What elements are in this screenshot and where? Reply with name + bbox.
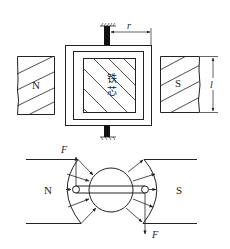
top-view (17, 23, 218, 140)
south-label-top: S (175, 77, 181, 89)
bottom-shaft (100, 125, 116, 140)
iron-core-label-1: 铁 (107, 72, 117, 84)
force-top-label: F (60, 144, 68, 155)
rotor-circle (89, 168, 133, 212)
north-label-bottom: N (44, 184, 52, 196)
length-dimension (200, 57, 218, 113)
iron-core-label-2: 芯 (107, 85, 117, 97)
force-bottom-label: F (151, 229, 159, 240)
motor-diagram: N S 铁 芯 r l (0, 0, 230, 249)
north-label-top: N (32, 79, 40, 91)
left-conductor (73, 186, 80, 193)
top-shaft (100, 23, 116, 45)
field-lines-left (66, 157, 96, 224)
south-label-bottom: S (176, 184, 182, 196)
radius-dimension (111, 28, 151, 45)
length-label: l (210, 79, 213, 90)
right-conductor (142, 186, 149, 193)
radius-label: r (127, 20, 131, 31)
